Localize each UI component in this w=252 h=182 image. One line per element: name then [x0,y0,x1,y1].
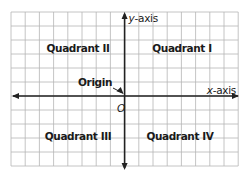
quadrant-i-label: Quadrant I [152,42,211,54]
y-axis-label: y-axis [128,12,158,24]
x-axis-arrow-left-icon [12,93,19,99]
quadrant-iv-label: Quadrant IV [146,130,214,142]
quadrant-ii-label: Quadrant II [47,42,110,54]
x-axis-label: x-axis [206,84,236,96]
origin-symbol: O [117,102,125,114]
origin-label: Origin [78,76,112,88]
coordinate-plane: y-axis x-axis Quadrant I Quadrant II Qua… [0,0,252,182]
quadrant-iii-label: Quadrant III [45,130,111,142]
y-axis-arrow-up-icon [122,12,128,19]
y-axis-arrow-down-icon [122,163,128,170]
